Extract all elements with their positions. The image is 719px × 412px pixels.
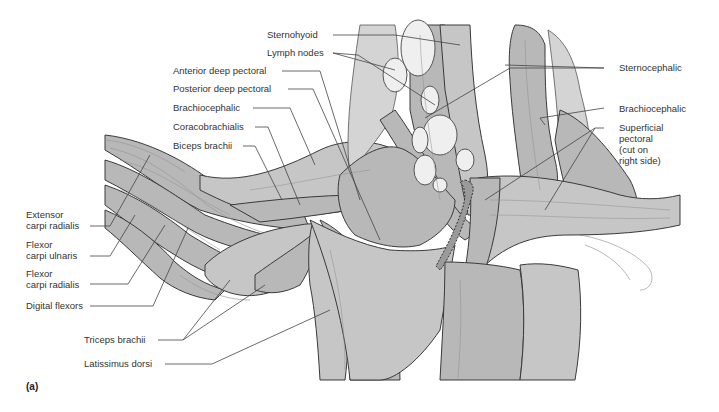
label-flexor-carpi-radialis: Flexor carpi radialis [26, 268, 79, 290]
label-superficial-pectoral: Superficial pectoral (cut on right side) [619, 122, 663, 166]
label-biceps-brachii: Biceps brachii [173, 140, 232, 151]
label-anterior-deep-pectoral: Anterior deep pectoral [173, 65, 266, 76]
label-brachiocephalic-left: Brachiocephalic [173, 102, 240, 113]
label-brachiocephalic-right: Brachiocephalic [619, 103, 686, 114]
label-flexor-carpi-ulnaris: Flexor carpi ulnaris [26, 239, 77, 261]
label-lymph-nodes: Lymph nodes [267, 47, 324, 58]
label-coracobrachialis: Coracobrachialis [173, 121, 244, 132]
label-posterior-deep-pectoral: Posterior deep pectoral [173, 83, 271, 94]
label-triceps-brachii: Triceps brachii [84, 334, 145, 345]
panel-letter: (a) [26, 381, 38, 392]
label-sternohyoid: Sternohyoid [267, 29, 318, 40]
label-sternocephalic: Sternocephalic [619, 62, 682, 73]
label-latissimus-dorsi: Latissimus dorsi [84, 358, 152, 369]
label-extensor-carpi-radialis: Extensor carpi radialis [26, 209, 79, 231]
anatomy-figure: Sternohyoid Lymph nodes Anterior deep pe… [0, 0, 719, 412]
muscle-illustration [0, 0, 719, 412]
label-digital-flexors: Digital flexors [26, 300, 83, 311]
superficial-pectoral-muscle [436, 176, 680, 380]
